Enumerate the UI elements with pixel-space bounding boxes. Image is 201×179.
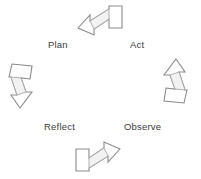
- arrow-top-icon: [76, 6, 128, 38]
- arrow-right-icon: [154, 57, 188, 109]
- label-reflect: Reflect: [44, 122, 75, 132]
- label-observe: Observe: [124, 122, 161, 132]
- arrow-left-icon: [8, 58, 42, 110]
- cycle-diagram: Plan Act Observe Reflect: [0, 0, 201, 179]
- arrow-bottom-icon: [70, 139, 122, 171]
- label-plan: Plan: [48, 40, 68, 50]
- label-act: Act: [130, 40, 144, 50]
